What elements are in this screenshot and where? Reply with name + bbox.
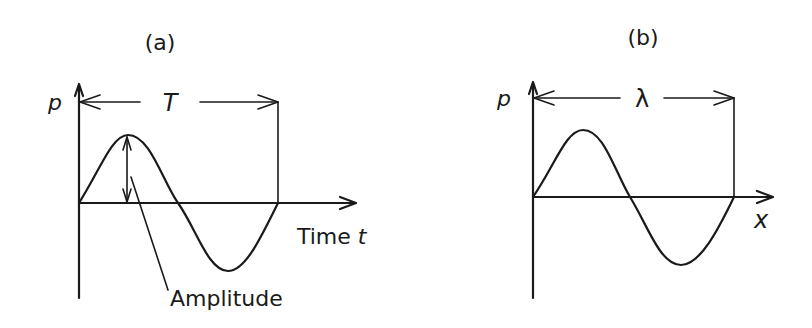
wavelength-label: λ [635, 85, 649, 113]
p-axis-label: p [496, 86, 511, 111]
amplitude-leader-line [131, 177, 168, 290]
amplitude-label: Amplitude [170, 286, 283, 311]
panel-b: (b) p x λ [496, 25, 773, 298]
panel-a-title: (a) [145, 30, 176, 55]
p-axis-label: p [47, 90, 62, 115]
panel-b-title: (b) [627, 25, 658, 50]
period-label: T [163, 89, 180, 117]
wave-diagram: (a) p Time t T Amplitude (b) p [0, 0, 812, 328]
time-axis-label: Time t [296, 224, 368, 249]
panel-a: (a) p Time t T Amplitude [47, 30, 368, 311]
x-axis-label: x [753, 206, 769, 234]
